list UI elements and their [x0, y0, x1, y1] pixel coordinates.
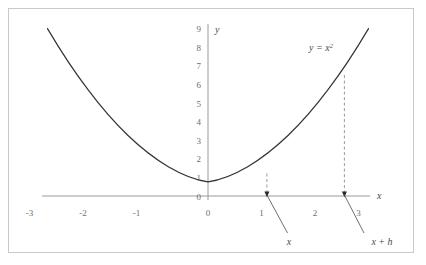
leader-line-x-plus-h: [344, 195, 364, 233]
y-tick-label-4: 4: [197, 117, 202, 127]
annotation-label-x-plus-h: x + h: [370, 236, 392, 247]
curve-equation-label: y = x2: [308, 42, 334, 54]
x-tick-label-0: 0: [206, 208, 211, 218]
y-tick-label-3: 3: [197, 136, 202, 146]
y-tick-label-7: 7: [197, 61, 202, 71]
x-tick-label-neg3: -3: [26, 208, 34, 218]
y-tick-label-0: 0: [197, 192, 202, 202]
x-tick-label-3: 3: [356, 208, 361, 218]
y-tick-label-2: 2: [197, 154, 202, 164]
figure-container: -3 -2 -1 0 1 2 3 0 1 2 3 4 5 6 7 8 9 y x…: [0, 0, 426, 265]
y-tick-label-5: 5: [197, 99, 202, 109]
curve-equation-base: y = x: [308, 42, 330, 53]
curve-equation-exponent: 2: [330, 42, 334, 49]
y-tick-label-8: 8: [197, 43, 202, 53]
y-tick-label-9: 9: [197, 24, 202, 34]
parabola-plot: -3 -2 -1 0 1 2 3 0 1 2 3 4 5 6 7 8 9 y x…: [0, 0, 426, 265]
leader-line-x: [267, 195, 288, 233]
y-axis-label: y: [214, 24, 220, 35]
x-tick-label-neg1: -1: [133, 208, 141, 218]
y-tick-label-6: 6: [197, 80, 202, 90]
annotation-label-x: x: [286, 236, 292, 247]
x-axis-label: x: [376, 190, 382, 201]
x-tick-label-neg2: -2: [79, 208, 87, 218]
x-tick-label-2: 2: [313, 208, 318, 218]
y-tick-label-1: 1: [197, 173, 202, 183]
x-tick-label-1: 1: [259, 208, 264, 218]
